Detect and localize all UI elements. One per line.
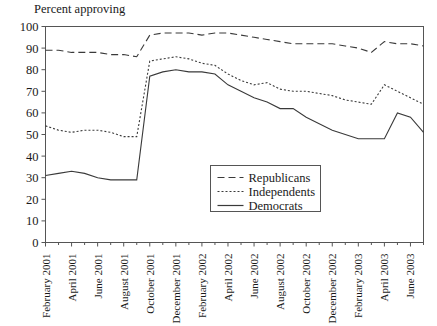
y-axis-tick-label: 70 — [26, 85, 39, 99]
x-axis-tick-label: April 2001 — [66, 254, 78, 302]
x-axis-tick-label: August 2001 — [118, 254, 130, 311]
x-axis-tick-label: February 2002 — [196, 254, 208, 318]
x-axis-tick-label: April 2002 — [222, 254, 234, 302]
x-axis-tick-label: December 2001 — [170, 254, 182, 324]
x-axis-tick-label: December 2002 — [326, 254, 338, 324]
legend-label-republicans: Republicans — [249, 171, 311, 185]
legend-label-democrats: Democrats — [249, 199, 303, 213]
y-axis-tick-label: 10 — [26, 214, 39, 228]
data-series-group — [46, 33, 424, 180]
x-axis-tick-label: June 2003 — [404, 253, 416, 298]
series-line-independents — [46, 57, 424, 137]
y-axis-tick-label: 90 — [26, 42, 39, 56]
x-axis-tick-label: February 2003 — [352, 253, 364, 318]
chart-legend: RepublicansIndependentsDemocrats — [211, 166, 321, 214]
chart-figure: Percent approving 0102030405060708090100… — [0, 0, 437, 326]
x-axis-tick-label: October 2002 — [300, 254, 312, 314]
series-line-democrats — [46, 70, 424, 180]
y-axis-tick-label: 20 — [26, 193, 39, 207]
x-axis-tick-label: February 2001 — [40, 254, 52, 318]
y-axis-tick-group: 0102030405060708090100 — [20, 20, 46, 250]
y-axis-tick-label: 0 — [32, 236, 38, 250]
y-axis-tick-label: 80 — [26, 63, 39, 77]
x-axis-label-group: February 2001April 2001June 2001August 2… — [40, 253, 417, 323]
x-axis-tick-label: April 2003 — [378, 253, 390, 301]
y-axis-tick-label: 100 — [20, 20, 39, 34]
y-axis-tick-label: 30 — [26, 171, 39, 185]
chart-plot-area: 0102030405060708090100 February 2001Apri… — [0, 0, 437, 326]
y-axis-tick-label: 40 — [26, 150, 39, 164]
series-line-republicans — [46, 33, 424, 57]
y-axis-tick-label: 50 — [26, 128, 39, 142]
x-axis-tick-label: August 2002 — [274, 254, 286, 311]
y-axis-tick-label: 60 — [26, 106, 39, 120]
x-axis-tick-label: June 2002 — [248, 254, 260, 299]
x-axis-tick-group — [46, 243, 424, 247]
legend-label-independents: Independents — [249, 185, 316, 199]
x-axis-tick-label: October 2001 — [144, 254, 156, 314]
x-axis-tick-label: June 2001 — [92, 254, 104, 299]
